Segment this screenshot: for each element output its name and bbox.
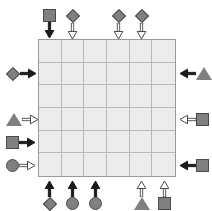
square-shape — [6, 136, 19, 149]
grid-cell-r5-c4[interactable] — [107, 131, 130, 154]
arrow-right-hollow-icon — [22, 114, 39, 125]
grid-cell-r3-c1[interactable] — [39, 85, 62, 108]
triangle-shape — [6, 113, 22, 126]
grid-cell-r6-c3[interactable] — [84, 153, 107, 176]
arrow-right-hollow-icon — [19, 160, 36, 171]
grid-cell-r2-c3[interactable] — [84, 63, 107, 86]
clue-top-2[interactable] — [64, 9, 82, 40]
arrow-up-hollow-icon — [136, 180, 147, 197]
arrow-down-hollow-icon — [67, 23, 78, 40]
grid-cell-r4-c5[interactable] — [130, 108, 153, 131]
triangle-shape — [134, 197, 150, 210]
arrow-up-filled-icon — [67, 180, 78, 197]
circle-shape — [66, 197, 79, 210]
clue-bottom-1[interactable] — [41, 180, 59, 211]
grid-cell-r3-c5[interactable] — [130, 85, 153, 108]
arrow-down-filled-icon — [44, 22, 55, 39]
clue-right-3[interactable] — [179, 158, 209, 174]
clue-left-2[interactable] — [6, 112, 39, 128]
puzzle-grid[interactable] — [38, 39, 176, 177]
grid-cell-r5-c5[interactable] — [130, 131, 153, 154]
diamond-shape — [42, 197, 56, 211]
grid-cell-r5-c6[interactable] — [152, 131, 175, 154]
clue-left-4[interactable] — [6, 158, 36, 174]
clue-top-4[interactable] — [133, 9, 151, 40]
grid-cell-r2-c1[interactable] — [39, 63, 62, 86]
clue-bottom-2[interactable] — [64, 180, 82, 210]
clue-bottom-3[interactable] — [87, 180, 105, 210]
square-shape — [196, 159, 209, 172]
arrow-up-filled-icon — [44, 180, 55, 197]
grid-cell-r4-c4[interactable] — [107, 108, 130, 131]
arrow-up-filled-icon — [90, 180, 101, 197]
grid-cell-r3-c2[interactable] — [62, 85, 85, 108]
clue-bottom-5[interactable] — [156, 180, 174, 210]
arrow-right-filled-icon — [19, 137, 36, 148]
arrow-right-filled-icon — [20, 68, 37, 79]
grid-cell-r6-c5[interactable] — [130, 153, 153, 176]
arrow-down-hollow-icon — [136, 23, 147, 40]
grid-cell-r2-c6[interactable] — [152, 63, 175, 86]
clue-right-1[interactable] — [179, 66, 212, 82]
grid-cell-r3-c3[interactable] — [84, 85, 107, 108]
grid-cell-r4-c1[interactable] — [39, 108, 62, 131]
grid-cell-r1-c2[interactable] — [62, 40, 85, 63]
triangle-shape — [196, 67, 212, 80]
grid-cell-r6-c1[interactable] — [39, 153, 62, 176]
arrow-down-hollow-icon — [113, 23, 124, 40]
grid-cell-r4-c2[interactable] — [62, 108, 85, 131]
grid-cell-r1-c5[interactable] — [130, 40, 153, 63]
grid-cell-r1-c1[interactable] — [39, 40, 62, 63]
grid-cell-r5-c1[interactable] — [39, 131, 62, 154]
diamond-shape — [6, 66, 20, 80]
arrow-left-filled-icon — [179, 160, 196, 171]
square-shape — [196, 113, 209, 126]
grid-cell-r5-c3[interactable] — [84, 131, 107, 154]
grid-cell-r2-c4[interactable] — [107, 63, 130, 86]
grid-cell-r4-c6[interactable] — [152, 108, 175, 131]
clue-bottom-4[interactable] — [133, 180, 151, 210]
clue-right-2[interactable] — [179, 112, 209, 128]
grid-cell-r4-c3[interactable] — [84, 108, 107, 131]
grid-cell-r2-c5[interactable] — [130, 63, 153, 86]
grid-cell-r5-c2[interactable] — [62, 131, 85, 154]
grid-cell-r6-c2[interactable] — [62, 153, 85, 176]
arrow-left-hollow-icon — [179, 114, 196, 125]
diamond-shape — [134, 9, 148, 23]
arrow-left-filled-icon — [179, 68, 196, 79]
circle-shape — [6, 159, 19, 172]
grid-cell-r1-c6[interactable] — [152, 40, 175, 63]
grid-cell-r1-c3[interactable] — [84, 40, 107, 63]
square-shape — [158, 197, 171, 210]
square-shape — [43, 9, 56, 22]
diamond-shape — [65, 9, 79, 23]
grid-cell-r1-c4[interactable] — [107, 40, 130, 63]
grid-cell-r2-c2[interactable] — [62, 63, 85, 86]
puzzle-canvas — [0, 0, 212, 211]
grid-cell-r6-c4[interactable] — [107, 153, 130, 176]
arrow-up-hollow-icon — [159, 180, 170, 197]
clue-top-3[interactable] — [110, 9, 128, 40]
grid-cell-r3-c4[interactable] — [107, 85, 130, 108]
grid-cell-r3-c6[interactable] — [152, 85, 175, 108]
clue-left-1[interactable] — [6, 66, 37, 82]
grid-cell-r6-c6[interactable] — [152, 153, 175, 176]
clue-left-3[interactable] — [6, 135, 36, 151]
diamond-shape — [111, 9, 125, 23]
clue-top-1[interactable] — [41, 9, 59, 39]
circle-shape — [89, 197, 102, 210]
